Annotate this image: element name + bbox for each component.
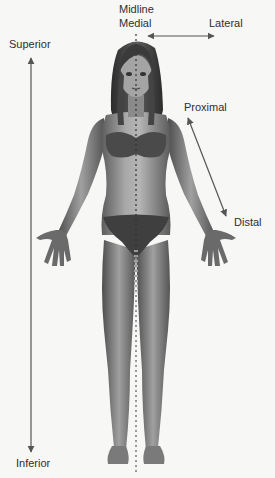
left-arm — [58, 118, 104, 236]
label-medial: Medial — [119, 17, 151, 30]
left-hand — [36, 230, 71, 266]
right-hand — [201, 230, 236, 266]
right-leg — [136, 240, 170, 464]
right-arm — [168, 118, 214, 236]
label-midline: Midline — [119, 3, 154, 16]
label-lateral: Lateral — [209, 17, 243, 30]
label-distal: Distal — [234, 216, 262, 229]
left-eye — [126, 72, 132, 76]
right-foot — [143, 446, 164, 464]
label-inferior: Inferior — [16, 457, 50, 470]
left-foot — [108, 446, 129, 464]
anatomical-figure-diagram — [0, 0, 275, 478]
label-proximal: Proximal — [184, 101, 227, 114]
label-superior: Superior — [9, 38, 51, 51]
right-eye — [140, 72, 146, 76]
left-leg — [102, 240, 136, 464]
